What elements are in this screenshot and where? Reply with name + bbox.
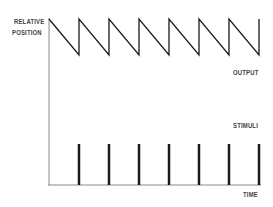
output-label: OUTPUT bbox=[233, 68, 258, 77]
y-axis-label-line1: RELATIVE bbox=[14, 17, 44, 26]
stimuli-label: STIMULI bbox=[233, 121, 258, 130]
y-axis-label-line2: POSITION bbox=[12, 28, 42, 37]
output-sawtooth bbox=[49, 19, 259, 55]
time-axis-label: TIME bbox=[243, 190, 258, 199]
stimuli-pulses bbox=[79, 144, 259, 185]
